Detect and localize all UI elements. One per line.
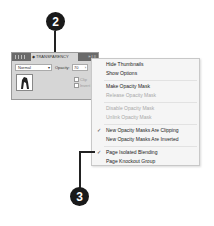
menu-item-new-masks-clipping[interactable]: New Opacity Masks Are Clipping — [106, 127, 179, 134]
panel-tab-bar: ◆ TRANSPARENCY » | ≡ — [12, 53, 98, 61]
menu-separator — [104, 146, 197, 147]
callout-2: 2 — [46, 12, 65, 31]
panel-grip-icon[interactable] — [15, 55, 16, 59]
blend-mode-value: Normal — [18, 65, 31, 70]
clip-label: Clip — [80, 77, 87, 82]
invert-mask-checkbox[interactable] — [74, 83, 79, 88]
clip-checkbox-row[interactable]: Clip — [74, 77, 87, 82]
checkmark-icon: ✓ — [97, 127, 101, 134]
menu-item-unlink-opacity-mask: Unlink Opacity Mask — [106, 114, 152, 121]
blend-mode-dropdown[interactable]: Normal ▾ — [15, 64, 52, 71]
chevron-down-icon: ▾ — [48, 65, 50, 71]
opacity-value: 70 — [74, 65, 78, 70]
menu-item-hide-thumbnails[interactable]: Hide Thumbnails — [106, 61, 143, 68]
panel-grip-icon[interactable] — [24, 55, 25, 59]
figure-thumbnail-icon — [17, 75, 32, 90]
opacity-field[interactable]: 70 › — [72, 64, 88, 71]
checkmark-icon: ✓ — [97, 149, 101, 156]
menu-item-new-masks-inverted[interactable]: New Opacity Masks Are Inverted — [106, 136, 179, 143]
artwork-thumbnail[interactable] — [16, 74, 33, 91]
callout-3-leader-line — [79, 151, 95, 153]
menu-separator — [104, 124, 197, 125]
menu-item-release-opacity-mask: Release Opacity Mask — [106, 92, 156, 99]
menu-separator — [104, 80, 197, 81]
callout-3-leader-line — [79, 151, 81, 189]
opacity-label: Opacity: — [55, 64, 70, 71]
callout-3: 3 — [70, 187, 89, 206]
transparency-panel: ◆ TRANSPARENCY » | ≡ Normal ▾ Opacity: 7… — [11, 52, 99, 100]
menu-item-page-knockout-group[interactable]: Page Knockout Group — [106, 158, 155, 165]
menu-item-make-opacity-mask[interactable]: Make Opacity Mask — [106, 83, 150, 90]
menu-item-show-options[interactable]: Show Options — [106, 70, 137, 77]
panel-options-menu: Hide Thumbnails Show Options Make Opacit… — [91, 58, 200, 166]
tab-transparency[interactable]: ◆ TRANSPARENCY — [31, 53, 78, 61]
menu-separator — [104, 102, 197, 103]
chevron-right-icon: › — [85, 65, 86, 71]
menu-item-disable-opacity-mask: Disable Opacity Mask — [106, 105, 154, 112]
panel-grip-icon[interactable] — [18, 55, 19, 59]
menu-item-page-isolated-blending[interactable]: Page Isolated Blending — [106, 149, 157, 156]
clip-checkbox[interactable] — [74, 77, 79, 82]
panel-grip-icon[interactable] — [21, 55, 22, 59]
